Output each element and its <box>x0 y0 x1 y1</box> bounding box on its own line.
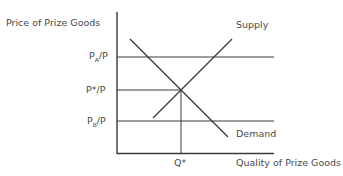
price-label-pstar: P*/P <box>86 84 105 95</box>
quantity-label-qstar: Q* <box>174 157 186 168</box>
demand-label: Demand <box>236 128 276 139</box>
supply-curve <box>153 39 232 118</box>
price-label-pa: PA/P <box>89 50 108 61</box>
y-axis-label: Price of Prize Goods <box>6 17 100 28</box>
supply-label: Supply <box>236 19 268 30</box>
x-axis-label: Quality of Prize Goods <box>236 157 341 168</box>
price-label-pb: PB/P <box>87 115 106 126</box>
demand-curve <box>130 39 228 137</box>
